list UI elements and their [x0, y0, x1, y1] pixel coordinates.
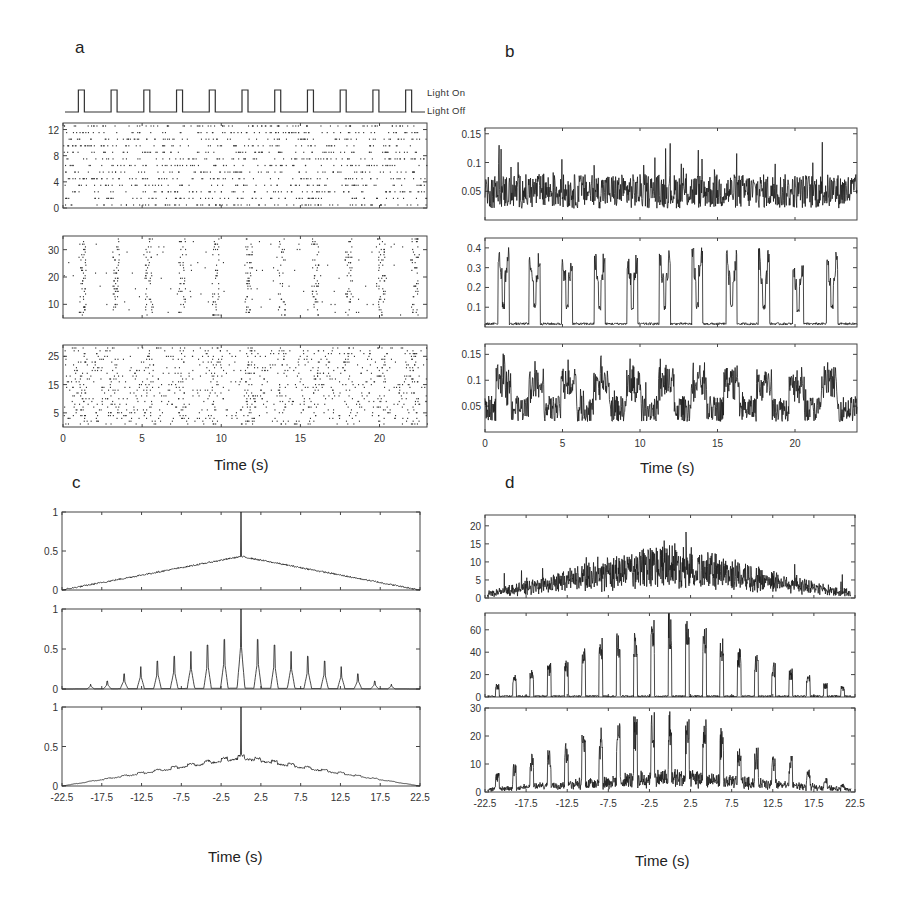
- axes-c3: 00.51-22.5-17.5-12.5-7.5-2.52.57.512.517…: [44, 702, 430, 803]
- xtick-label: 0: [482, 438, 488, 449]
- ytick-label: 0.5: [44, 644, 58, 655]
- ytick-label: 30: [470, 703, 482, 714]
- xtick-label: 2.5: [254, 792, 268, 803]
- xtick-label: 15: [295, 433, 307, 444]
- ytick-label: 0: [52, 585, 58, 596]
- ytick-label: 0.1: [467, 302, 481, 313]
- plots-container: 0481210203051525051015200.050.10.150.10.…: [44, 123, 865, 809]
- ytick-label: 12: [48, 125, 60, 136]
- axes-frame: [485, 128, 857, 220]
- ytick-label: 20: [470, 521, 482, 532]
- xtick-label: -2.5: [212, 792, 230, 803]
- axes-d3: 0102030-22.5-17.5-12.5-7.5-2.52.57.512.5…: [470, 703, 865, 809]
- xtick-label: -22.5: [51, 792, 74, 803]
- ytick-label: 15: [470, 539, 482, 550]
- axes-frame: [485, 613, 855, 697]
- xtick-label: 12.5: [763, 798, 783, 809]
- axes-b2: 0.10.20.30.4: [467, 238, 857, 327]
- axes-c2: 00.51: [44, 604, 420, 695]
- ytick-label: 0.1: [467, 375, 481, 386]
- ytick-label: 0.5: [44, 546, 58, 557]
- ytick-label: 0.15: [462, 129, 482, 140]
- ytick-label: 25: [48, 351, 60, 362]
- xtick-label: 7.5: [294, 792, 308, 803]
- data-trace: [62, 609, 420, 689]
- light-off-label: Light Off: [427, 105, 465, 116]
- xlabel-a: Time (s): [214, 456, 268, 473]
- light-on-label: Light On: [427, 87, 465, 98]
- xlabel-b: Time (s): [640, 459, 694, 476]
- xtick-label: 17.5: [370, 792, 390, 803]
- ytick-label: 10: [48, 299, 60, 310]
- ytick-label: 1: [52, 604, 58, 615]
- ytick-label: 40: [470, 647, 482, 658]
- axes-a3: 5152505101520: [48, 345, 428, 444]
- data-trace: [488, 532, 851, 597]
- xtick-label: -17.5: [90, 792, 113, 803]
- axes-a2: 102030: [48, 236, 427, 318]
- ytick-label: 0.5: [44, 742, 58, 753]
- xtick-label: 10: [216, 433, 228, 444]
- data-trace: [488, 712, 851, 792]
- ytick-label: 1: [52, 507, 58, 518]
- xtick-label: -12.5: [130, 792, 153, 803]
- xtick-label: 20: [374, 433, 386, 444]
- xlabel-d: Time (s): [635, 852, 689, 869]
- xtick-label: 2.5: [684, 798, 698, 809]
- xtick-label: -17.5: [515, 798, 538, 809]
- ytick-label: 0: [475, 787, 481, 798]
- xtick-label: 12.5: [331, 792, 351, 803]
- data-trace: [485, 248, 857, 326]
- xtick-label: 5: [139, 433, 145, 444]
- ytick-label: 20: [48, 272, 60, 283]
- axes-frame: [485, 238, 857, 327]
- data-trace: [485, 142, 857, 208]
- ytick-label: 0: [475, 593, 481, 604]
- xtick-label: 15: [712, 438, 724, 449]
- axes-d2: 0204060: [470, 613, 855, 703]
- xtick-label: 22.5: [845, 798, 865, 809]
- xtick-label: 22.5: [410, 792, 430, 803]
- ytick-label: 0: [53, 203, 59, 214]
- light-stimulus: Light On Light Off: [65, 87, 465, 116]
- ytick-label: 5: [475, 575, 481, 586]
- ytick-label: 10: [470, 759, 482, 770]
- data-trace: [62, 512, 420, 590]
- axes-d1: 05101520: [470, 515, 855, 604]
- light-stimulus-trace: [65, 90, 425, 112]
- panel-label-c: c: [72, 473, 81, 492]
- ytick-label: 30: [48, 245, 60, 256]
- ytick-label: 8: [53, 151, 59, 162]
- panel-label-b: b: [505, 42, 514, 61]
- ytick-label: 0: [52, 781, 58, 792]
- xtick-label: 7.5: [725, 798, 739, 809]
- data-trace: [488, 613, 851, 697]
- axes-c1: 00.51: [44, 507, 420, 596]
- ytick-label: 20: [470, 731, 482, 742]
- ytick-label: 0.05: [462, 186, 482, 197]
- axes-frame: [63, 236, 427, 318]
- ytick-label: 0.2: [467, 282, 481, 293]
- ytick-label: 1: [52, 702, 58, 713]
- ytick-label: 0.3: [467, 263, 481, 274]
- ytick-label: 5: [53, 408, 59, 419]
- xtick-label: 17.5: [804, 798, 824, 809]
- figure-canvas: a b c d Light On Light Off 0481210203051…: [0, 0, 898, 903]
- axes-b3: 0.050.10.1505101520: [462, 344, 857, 449]
- xtick-label: 5: [560, 438, 566, 449]
- panel-label-a: a: [75, 38, 85, 57]
- xtick-label: -12.5: [556, 798, 579, 809]
- axes-a1: 04812: [48, 123, 427, 214]
- xtick-label: -7.5: [173, 792, 191, 803]
- ytick-label: 0.05: [462, 401, 482, 412]
- axes-frame: [63, 345, 427, 427]
- ytick-label: 0: [52, 684, 58, 695]
- xtick-label: 0: [60, 433, 66, 444]
- xtick-label: 10: [634, 438, 646, 449]
- xtick-label: 20: [789, 438, 801, 449]
- ytick-label: 0.4: [467, 243, 481, 254]
- ytick-label: 4: [53, 177, 59, 188]
- ytick-label: 60: [470, 625, 482, 636]
- xtick-label: -22.5: [474, 798, 497, 809]
- ytick-label: 0.15: [462, 349, 482, 360]
